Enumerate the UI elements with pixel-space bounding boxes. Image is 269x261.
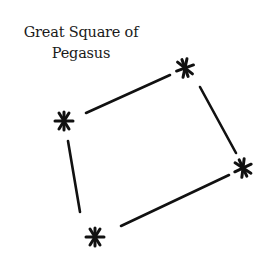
star-top-icon: [173, 56, 196, 79]
line-top-right: [200, 87, 236, 153]
star-left-icon: [55, 112, 73, 130]
line-right-bottom: [121, 175, 229, 226]
star-bottom-icon: [86, 228, 104, 246]
line-left-top: [86, 75, 170, 113]
star-right-icon: [231, 156, 255, 180]
constellation-diagram: [0, 0, 269, 261]
line-bottom-left: [68, 141, 80, 212]
